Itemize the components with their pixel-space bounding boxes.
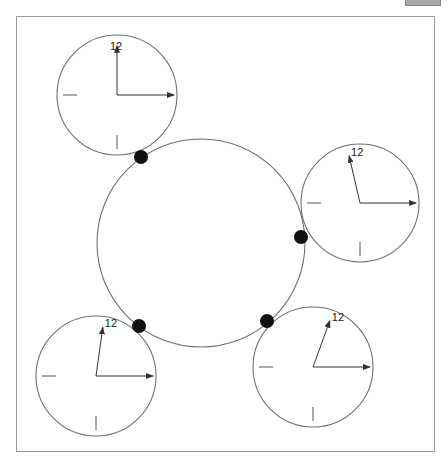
- clock-label-12: 12: [110, 40, 122, 52]
- contact-dot: [134, 150, 148, 164]
- contact-dot: [260, 314, 274, 328]
- clock-right: 12: [301, 144, 419, 262]
- clock-label-12: 12: [332, 311, 344, 323]
- contact-dot: [132, 319, 146, 333]
- clock-label-12: 12: [351, 146, 363, 158]
- contact-dot: [294, 230, 308, 244]
- clock-bottom-left: 12: [36, 316, 156, 436]
- main-ring: [97, 139, 305, 347]
- clocks: 12121212: [36, 35, 419, 436]
- clock-top-left: 12: [57, 35, 177, 155]
- diagram-canvas: 12121212: [0, 0, 448, 467]
- clock-label-12: 12: [105, 317, 117, 329]
